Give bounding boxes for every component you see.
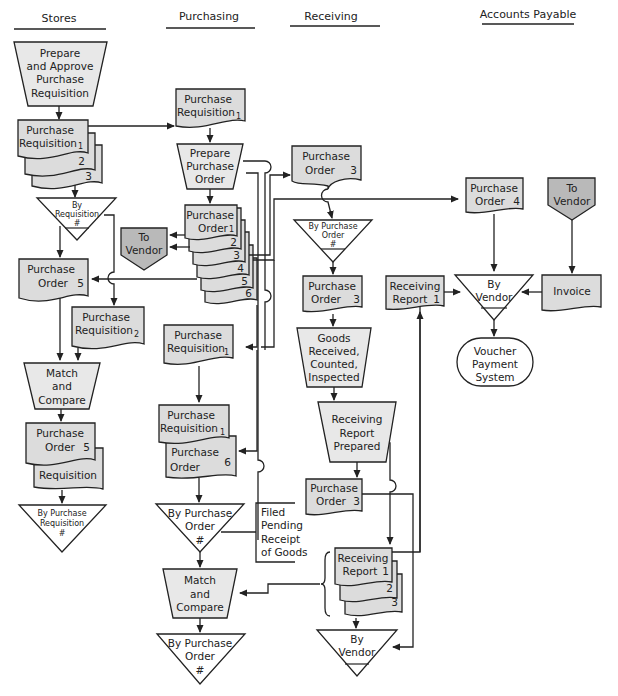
svg-text:Order: Order [170,461,201,473]
svg-text:To: To [565,182,577,194]
svg-text:Requisition: Requisition [75,324,133,336]
svg-text:#: # [59,529,66,538]
document-po5-requisition-pair: Requisition Purchase Order 5 [26,423,103,489]
document-purchase-requisition-1b: Purchase Requisition 1 [164,325,233,364]
svg-text:By: By [487,278,500,290]
document-receiving-report-stack: 3 2 Receiving Report 1 [335,548,402,616]
file-by-purchase-order-2: By Purchase Order # [157,634,245,684]
svg-text:Purchase: Purchase [470,182,518,194]
svg-text:3: 3 [233,249,240,261]
svg-text:Requisition: Requisition [167,342,225,354]
svg-text:2: 2 [78,155,85,167]
svg-text:Purchase: Purchase [186,209,234,221]
svg-text:#: # [196,534,205,546]
file-by-purchase-order-1: By Purchase Order # [156,504,244,552]
svg-text:and: and [190,588,210,600]
svg-text:1: 1 [78,142,83,151]
svg-text:Requisition: Requisition [160,422,218,434]
svg-text:Report: Report [393,293,428,305]
svg-text:By Purchase: By Purchase [37,509,86,518]
svg-text:Order: Order [198,222,229,234]
svg-text:5: 5 [83,441,90,453]
process-receiving-report-prepared: Receiving Report Prepared [318,402,396,462]
svg-text:Order: Order [316,495,347,507]
svg-text:Voucher: Voucher [474,345,517,357]
svg-text:Order: Order [305,164,336,176]
svg-text:2: 2 [134,330,139,339]
svg-text:Receiving: Receiving [304,10,357,23]
svg-text:6: 6 [245,287,252,299]
svg-text:Purchase: Purchase [82,311,130,323]
document-purchase-order-stack: 6 5 4 3 2 Purchase Order 1 [185,205,257,304]
svg-text:Prepare: Prepare [40,47,80,59]
svg-text:#: # [196,664,205,676]
svg-text:Match: Match [184,574,216,586]
svg-text:Pending: Pending [261,519,303,531]
document-purchase-requisition-2: Purchase Requisition 2 [72,307,144,349]
svg-text:Order: Order [185,520,216,532]
svg-text:Requisition: Requisition [31,87,89,99]
process-match-compare-purchasing: Match and Compare [163,569,237,618]
process-prepare-purchase-order: Prepare Purchase Order [177,144,243,189]
process-match-compare-stores: Match and Compare [24,363,100,409]
file-by-vendor-receiving: By Vendor [317,630,397,676]
svg-text:Order: Order [195,173,226,185]
svg-text:4: 4 [513,195,520,207]
document-invoice: Invoice [542,275,601,311]
document-to-vendor-purchasing: To Vendor [121,228,167,270]
svg-text:Report: Report [340,427,375,439]
svg-text:Stores: Stores [42,12,77,25]
svg-text:Purchase: Purchase [308,280,356,292]
document-purchase-order-3b: Purchase Order 3 [303,276,362,312]
file-by-vendor-ap: By Vendor [455,275,533,320]
document-purchase-requisition-stack: 3 2 Purchase Requisition 1 [18,120,102,189]
svg-text:Order: Order [311,293,342,305]
svg-text:Purchase: Purchase [171,446,219,458]
document-purchase-order-3a: Purchase Order 3 [292,146,361,189]
svg-text:3: 3 [353,293,360,305]
svg-text:3: 3 [353,495,360,507]
svg-text:Requisition: Requisition [177,106,235,118]
svg-text:1: 1 [236,112,241,121]
svg-text:Purchase: Purchase [174,329,222,341]
svg-text:Receiving: Receiving [390,280,441,292]
svg-text:Requisition: Requisition [40,519,84,528]
svg-text:Order: Order [322,231,345,240]
svg-text:Received,: Received, [308,345,359,357]
svg-text:3: 3 [350,164,357,176]
svg-text:4: 4 [237,262,244,274]
svg-text:Receiving: Receiving [338,552,389,564]
svg-text:5: 5 [77,277,84,289]
svg-text:Compare: Compare [38,394,86,406]
document-to-vendor-ap: To Vendor [548,178,595,220]
svg-text:Invoice: Invoice [553,285,591,297]
svg-text:System: System [475,371,514,383]
svg-text:By Purchase: By Purchase [308,222,357,231]
svg-text:Purchase: Purchase [184,93,232,105]
svg-text:Order: Order [475,195,506,207]
svg-text:By Purchase: By Purchase [168,637,232,649]
svg-text:Purchase: Purchase [310,482,358,494]
svg-text:1: 1 [229,225,234,234]
svg-text:5: 5 [241,275,248,287]
document-receiving-report-1-ap: Receiving Report 1 [386,276,444,310]
svg-text:Requisition: Requisition [55,210,99,219]
svg-text:By: By [72,201,82,210]
process-goods-received-inspected: Goods Received, Counted, Inspected [297,328,371,387]
lane-header-accounts-payable: Accounts Payable [480,8,577,24]
svg-text:Counted,: Counted, [310,358,358,370]
svg-text:Receiving: Receiving [332,413,383,425]
svg-text:To: To [137,231,149,243]
svg-text:of Goods: of Goods [261,546,308,558]
svg-text:#: # [74,219,81,228]
svg-text:Payment: Payment [472,358,518,370]
svg-text:Report: Report [343,565,378,577]
svg-text:By: By [350,633,363,645]
svg-text:Goods: Goods [317,332,350,344]
lane-header-receiving: Receiving [290,10,380,26]
svg-text:Purchase: Purchase [36,73,84,85]
document-purchase-order-4: Purchase Order 4 [466,178,523,213]
document-pr1-po6-pair: Purchase Order 6 Purchase Requisition 1 [159,405,236,478]
svg-text:Vendor: Vendor [339,646,377,658]
document-purchase-requisition-1: Purchase Requisition 1 [176,89,245,127]
